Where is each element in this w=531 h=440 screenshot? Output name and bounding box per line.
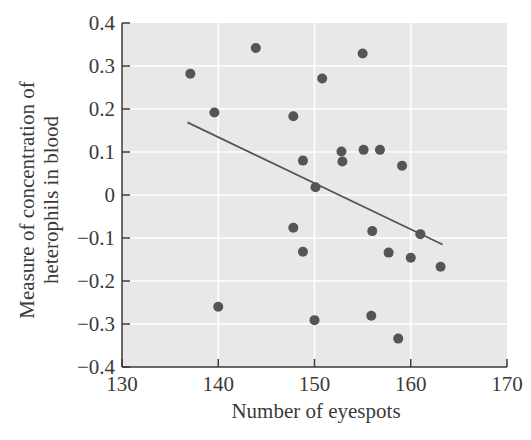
data-point: [393, 334, 403, 344]
x-tick-label: 160: [395, 372, 427, 396]
y-tick-label: 0.4: [89, 11, 116, 35]
data-point: [366, 311, 376, 321]
data-point: [251, 43, 261, 53]
data-point: [213, 302, 223, 312]
x-tick-label: 170: [491, 372, 523, 396]
data-point: [298, 156, 308, 166]
data-point: [436, 262, 446, 272]
x-axis-title: Number of eyespots: [231, 399, 400, 423]
data-point: [336, 147, 346, 157]
y-axis-ticks: 0.40.30.20.10−0.1−0.2−0.3−0.4: [77, 11, 130, 379]
data-point: [358, 49, 368, 59]
data-point: [337, 156, 347, 166]
data-point: [298, 247, 308, 257]
data-point: [397, 161, 407, 171]
scatter-chart: 130140150160170 0.40.30.20.10−0.1−0.2−0.…: [0, 0, 531, 440]
data-point: [317, 73, 327, 83]
y-tick-label: −0.2: [77, 269, 115, 293]
data-point: [310, 182, 320, 192]
data-point: [367, 226, 377, 236]
y-tick-label: 0.2: [89, 97, 115, 121]
y-axis-title-line-1: Measure of concentration of: [15, 81, 39, 318]
x-tick-label: 140: [203, 372, 235, 396]
data-point: [185, 69, 195, 79]
y-axis-title: Measure of concentration of heterophils …: [15, 81, 63, 318]
data-point: [406, 253, 416, 263]
y-tick-label: 0.3: [89, 54, 115, 78]
x-tick-label: 150: [299, 372, 331, 396]
y-tick-label: 0: [105, 183, 116, 207]
data-point: [384, 248, 394, 258]
y-tick-label: −0.1: [77, 226, 115, 250]
y-tick-label: −0.4: [77, 355, 116, 379]
y-tick-label: 0.1: [89, 140, 115, 164]
data-point: [310, 315, 320, 325]
data-point: [415, 229, 425, 239]
data-point: [288, 223, 298, 233]
data-point: [288, 111, 298, 121]
y-tick-label: −0.3: [77, 312, 115, 336]
data-point: [359, 145, 369, 155]
y-axis-title-line-2: heterophils in blood: [39, 116, 63, 284]
data-point: [209, 107, 219, 117]
data-point: [375, 145, 385, 155]
